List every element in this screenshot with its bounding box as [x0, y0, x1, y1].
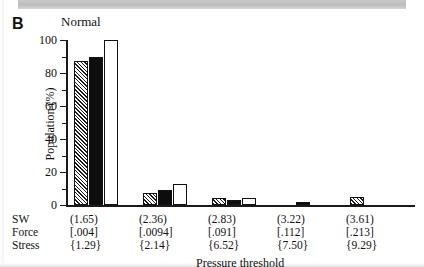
x-row-force: Force [.004][.0094][.091][.112][.213]	[0, 226, 424, 239]
bar-open	[242, 198, 256, 205]
x-row-sw: SW (1.65)(2.36)(2.83)(3.22)(3.61)	[0, 213, 424, 226]
y-tick-major	[60, 205, 66, 206]
y-tick-label: 0	[51, 199, 57, 211]
bar-hatched	[350, 197, 364, 205]
x-label-force: [.091]	[208, 226, 236, 238]
bar-hatched	[74, 61, 88, 205]
panel-label: B	[12, 15, 24, 33]
x-row-label-stress: Stress	[12, 239, 39, 251]
y-tick-label: 80	[45, 67, 57, 79]
bar-group	[281, 40, 326, 205]
bar-hatched	[143, 193, 157, 205]
y-tick-label: 60	[45, 100, 57, 112]
x-label-sw: (2.36)	[139, 213, 167, 225]
bar-solid	[89, 57, 103, 206]
x-label-force: [.004]	[70, 226, 98, 238]
x-label-sw: (1.65)	[70, 213, 98, 225]
x-label-stress: {6.52}	[208, 239, 239, 251]
panel-title: Normal	[61, 14, 101, 30]
bar-group	[350, 40, 395, 205]
x-label-stress: {7.50}	[277, 239, 308, 251]
x-row-label-force: Force	[12, 226, 38, 238]
x-label-stress: {1.29}	[70, 239, 101, 251]
x-axis-label-table: SW (1.65)(2.36)(2.83)(3.22)(3.61) Force …	[0, 213, 424, 252]
x-label-sw: (3.22)	[277, 213, 305, 225]
bar-solid	[227, 200, 241, 205]
y-tick-label: 100	[39, 34, 57, 46]
bar-group	[143, 40, 188, 205]
bar-solid	[158, 190, 172, 205]
x-label-stress: {2.14}	[139, 239, 170, 251]
x-row-label-sw: SW	[12, 213, 29, 225]
bar-open	[173, 184, 187, 205]
bar-open	[104, 40, 118, 205]
x-axis-line	[66, 205, 415, 207]
bar-series-container	[66, 40, 415, 205]
bar-hatched	[212, 198, 226, 205]
x-label-force: [.213]	[346, 226, 374, 238]
x-label-sw: (3.61)	[346, 213, 374, 225]
plot-area: Population (%) 020406080100	[66, 40, 415, 207]
x-label-force: [.0094]	[139, 226, 173, 238]
bar-group	[74, 40, 119, 205]
x-label-stress: {9.29}	[346, 239, 377, 251]
bar-solid	[296, 202, 310, 205]
bar-group	[212, 40, 257, 205]
x-label-sw: (2.83)	[208, 213, 236, 225]
y-tick-label: 40	[45, 133, 57, 145]
x-row-stress: Stress {1.29}{2.14}{6.52}{7.50}{9.29}	[0, 239, 424, 252]
x-label-force: [.112]	[277, 226, 304, 238]
y-axis-title: Population (%)	[43, 87, 58, 160]
figure-panel-b: B Normal Population (%) 020406080100 SW …	[0, 9, 424, 267]
x-axis-title: Pressure threshold	[196, 256, 284, 267]
y-tick-label: 20	[45, 166, 57, 178]
scan-artifact-top-strip	[18, 0, 406, 9]
